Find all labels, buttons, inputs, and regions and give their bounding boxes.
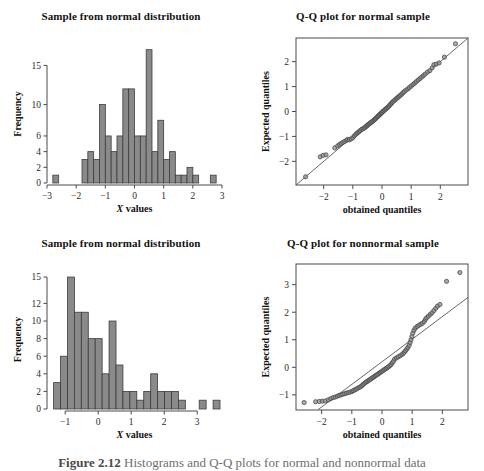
y-axis-tick-label: 10 [32,316,42,326]
chart-hist-nonnormal: 02468101215−10123X valuesFrequency [0,237,242,450]
histogram-bar [151,374,158,409]
y-axis-tick-label: 2 [284,57,289,67]
histogram-bar [178,400,185,409]
histogram-bar [164,159,170,183]
y-axis-tick-label: 0 [284,363,289,373]
panel-hist-normal: Sample from normal distribution 02461015… [0,10,242,225]
x-axis-tick-label: 0 [380,417,385,427]
histogram-bar [158,391,165,409]
x-axis-tick-label: 1 [409,192,414,202]
scatter-point [458,270,462,274]
histogram-bar [67,277,74,409]
histogram-bar [100,105,106,183]
histogram-bar [105,136,111,183]
histogram-bar [88,339,95,409]
x-axis-tick-label: −2 [71,191,81,201]
y-axis-tick-label: 1 [284,82,289,92]
scatter-point [304,175,308,179]
histogram-bar [116,365,123,409]
y-axis-tick-label: 6 [36,131,41,141]
x-axis-tick-label: 1 [129,417,134,427]
x-axis-tick-label: −1 [348,192,358,202]
histogram-bar [140,136,146,183]
panel-qq-normal: Q-Q plot for normal sample −2−1012−2−101… [242,10,484,225]
histogram-bar [170,152,176,183]
y-axis-label: Expected quantiles [260,296,271,377]
histogram-bar [175,175,181,183]
scatter-point [324,153,328,157]
histogram-bar [152,152,158,183]
y-axis-tick-label: 2 [284,308,289,318]
scatter-point [302,400,306,404]
histogram-bar [171,391,178,409]
chart-qq-normal: −2−1012−2−1012obtained quantilesExpected… [242,10,484,225]
x-axis-tick-label: −1 [347,417,357,427]
histogram-bars [54,277,220,409]
x-axis-tick-label: 3 [195,417,200,427]
plot-frame [296,264,468,410]
histogram-bar [135,136,141,183]
scatter-points [302,270,462,404]
histogram-bar [193,175,199,183]
histogram-bar [111,152,117,183]
x-axis-tick-label: −1 [100,191,110,201]
histogram-bar [53,175,59,183]
histogram-bar [129,89,135,183]
histogram-bar [213,400,220,409]
x-axis-tick-label: 2 [190,191,195,201]
y-axis-tick-label: 0 [284,107,289,117]
y-axis-tick-label: 4 [36,147,41,157]
histogram-bar [158,120,164,183]
histogram-bars [53,50,216,183]
panel-qq-nonnormal: Q-Q plot for nonnormal sample −10123−2−1… [242,237,484,450]
scatter-point [437,61,441,65]
y-axis-tick-label: 0 [36,404,41,414]
histogram-bar [74,312,81,409]
histogram-bar [94,159,100,183]
x-axis-tick-label: 1 [410,417,415,427]
chart-hist-normal: 02461015−3−2−10123X valuesFrequency [0,10,242,225]
x-axis-label: X values [116,203,153,214]
x-axis-tick-label: 0 [132,191,137,201]
y-axis-tick-label: 1 [284,335,289,345]
scatter-point [442,55,446,59]
x-axis-tick-label: 3 [220,191,225,201]
y-axis-tick-label: −2 [279,157,289,167]
x-axis-tick-label: −1 [60,417,70,427]
y-axis-label: Expected quantiles [260,71,271,152]
histogram-bar [165,391,172,409]
histogram-bar [187,167,193,183]
scatter-point [438,302,442,306]
histogram-bar [82,159,88,183]
chart-qq-nonnormal: −10123−2−1012obtained quantilesExpected … [242,237,484,450]
y-axis-tick-label: 3 [284,280,289,290]
y-axis-tick-label: 8 [36,334,41,344]
scatter-point [453,42,457,46]
histogram-bar [117,136,123,183]
histogram-bar [102,374,109,409]
histogram-bar [54,383,61,409]
y-axis-label: Frequency [12,91,23,136]
y-axis-tick-label: 0 [36,178,41,188]
histogram-bar [146,50,152,183]
histogram-bar [88,152,94,183]
histogram-bar [137,400,144,409]
x-axis-tick-label: −2 [319,192,329,202]
histogram-bar [181,175,187,183]
y-axis-label: Frequency [12,317,23,362]
x-axis-label: obtained quantiles [343,429,422,440]
x-axis-label: X values [116,429,153,440]
x-axis-tick-label: −3 [42,191,52,201]
histogram-bar [81,312,88,409]
y-axis-tick-label: 6 [36,352,41,362]
y-axis-tick-label: 15 [32,272,42,282]
figure-caption: Figure 2.12 Histograms and Q-Q plots for… [0,455,484,471]
x-axis-tick-label: 0 [380,192,385,202]
y-axis-tick-label: 2 [36,387,41,397]
y-axis-tick-label: −1 [279,132,289,142]
figure-caption-number: Figure 2.12 [58,455,121,470]
histogram-bar [95,339,102,409]
y-axis-tick-label: 4 [36,369,41,379]
y-axis-tick-label: 12 [32,299,42,309]
